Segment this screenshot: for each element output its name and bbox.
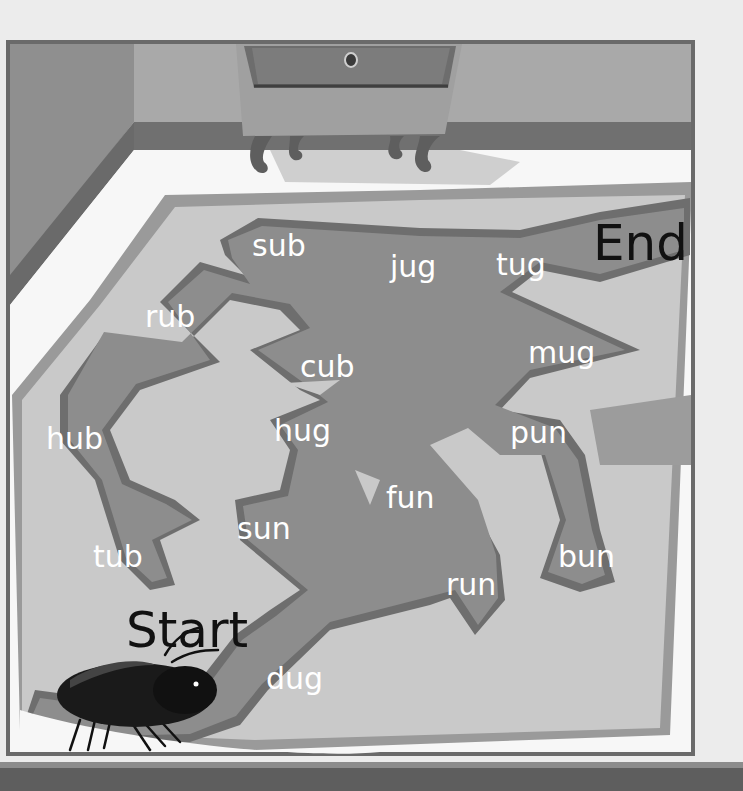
start-label: Start <box>126 605 248 655</box>
bottom-band <box>0 768 743 791</box>
maze-word[interactable]: hug <box>274 416 331 446</box>
maze-word[interactable]: mug <box>528 338 595 368</box>
maze-word[interactable]: sun <box>237 514 291 544</box>
maze-word[interactable]: run <box>446 570 496 600</box>
maze-word[interactable]: jug <box>390 252 436 282</box>
maze-scene: Start End sub jug tug rub cub mug hub hu… <box>0 0 743 791</box>
maze-word[interactable]: dug <box>266 664 323 694</box>
maze-word[interactable]: rub <box>145 302 195 332</box>
maze-word[interactable]: bun <box>558 542 615 572</box>
maze-word[interactable]: cub <box>300 352 355 382</box>
end-label: End <box>593 218 688 268</box>
maze-word[interactable]: fun <box>386 483 435 513</box>
maze-word[interactable]: pun <box>510 418 567 448</box>
maze-word[interactable]: sub <box>252 231 306 261</box>
maze-word[interactable]: hub <box>46 424 103 454</box>
maze-word[interactable]: tug <box>496 250 546 280</box>
maze-word[interactable]: tub <box>93 542 143 572</box>
